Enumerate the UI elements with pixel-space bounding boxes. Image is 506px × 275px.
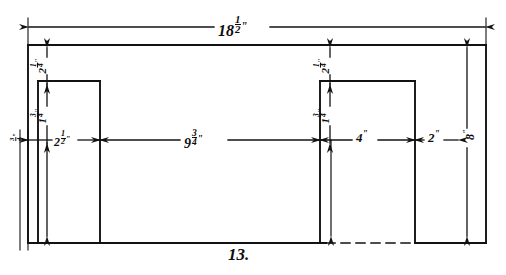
label-top-margin-right: 214"	[314, 59, 331, 74]
label-edge-offset: 34"	[9, 134, 25, 142]
label-overall-width: 1812"	[218, 15, 247, 39]
label-top-margin-left: 214"	[31, 59, 48, 74]
label-notch-height-right: 134"	[314, 109, 331, 124]
label-center-span: 934"	[184, 129, 202, 151]
label-notch-height-left: 134"	[31, 109, 48, 124]
right-notch-rect	[320, 81, 415, 243]
drawing-canvas: 1812" 214" 134" 214" 134" 34" 212" 934" …	[0, 0, 506, 275]
label-right-notch-width: 4"	[356, 130, 367, 144]
board-outline	[28, 45, 486, 243]
figure-number: 13.	[228, 245, 249, 265]
label-left-notch-width: 212"	[54, 131, 70, 148]
extension-lines	[20, 18, 486, 250]
label-right-margin: 2"	[428, 130, 439, 144]
label-overall-height: 8"	[462, 130, 476, 140]
